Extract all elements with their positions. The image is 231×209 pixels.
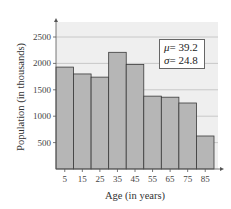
x-tick-label: 55 [148, 174, 158, 184]
x-tick-label: 15 [78, 174, 88, 184]
x-tick-label: 85 [201, 174, 211, 184]
y-tick-label: 500 [38, 138, 52, 148]
y-axis-title: Population (in thousands) [15, 43, 27, 151]
histogram-chart: 5001000150020002500 51525354555657585 Ag… [0, 0, 231, 209]
x-axis-title: Age (in years) [105, 190, 166, 202]
histogram-bar [196, 136, 214, 169]
histogram-bar [161, 97, 179, 169]
x-tick-label: 35 [113, 174, 123, 184]
x-tick-label: 25 [95, 174, 105, 184]
y-axis-ticks: 5001000150020002500 [33, 32, 56, 148]
y-tick-label: 1000 [33, 111, 52, 121]
histogram-bar [109, 52, 127, 169]
x-axis-ticks: 51525354555657585 [63, 169, 211, 184]
y-tick-label: 1500 [33, 85, 52, 95]
mean-line: μ= 39.2 [164, 41, 204, 54]
stddev-line: σ= 24.8 [164, 54, 204, 67]
histogram-bar [126, 64, 144, 169]
mean-value: = 39.2 [170, 41, 198, 53]
statistics-box: μ= 39.2 σ= 24.8 [159, 39, 205, 69]
x-tick-label: 45 [131, 174, 141, 184]
y-axis-arrow-icon [54, 18, 58, 22]
histogram-bar [56, 67, 74, 169]
y-tick-label: 2500 [33, 32, 52, 42]
y-tick-label: 2000 [33, 58, 52, 68]
histogram-bar [144, 96, 162, 169]
x-tick-label: 65 [166, 174, 176, 184]
stddev-value: = 24.8 [169, 54, 197, 66]
x-axis-arrow-icon [220, 167, 224, 171]
x-tick-label: 5 [63, 174, 68, 184]
histogram-bar [179, 103, 197, 169]
histogram-bar [74, 74, 92, 169]
x-tick-label: 75 [183, 174, 193, 184]
histogram-bar [91, 77, 109, 169]
